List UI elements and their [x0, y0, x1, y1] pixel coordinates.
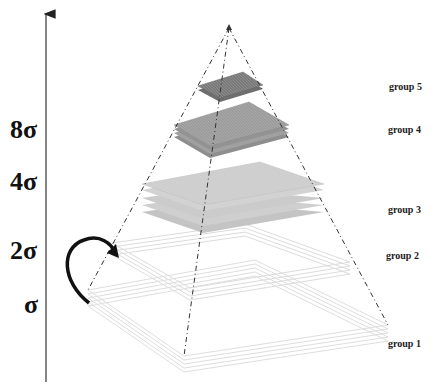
axis-label-2sigma: 2σ	[10, 236, 37, 265]
axis-label-8sigma: 8σ	[10, 115, 37, 144]
group-label-2: group 2	[386, 250, 419, 261]
group-label-1: group 1	[388, 338, 421, 349]
layer-group-1	[88, 260, 388, 372]
axis-label-4sigma: 4σ	[10, 167, 37, 196]
axis-label-sigma: σ	[24, 290, 38, 319]
group-label-3: group 3	[388, 204, 421, 215]
layer-group-5	[198, 72, 263, 102]
group-label-4: group 4	[388, 124, 421, 135]
gaussian-pyramid-diagram: 8σ 4σ 2σ σ	[0, 0, 433, 391]
apex-marker	[226, 24, 232, 30]
layer-group-3	[142, 162, 324, 233]
layer-group-4	[174, 102, 289, 158]
group-label-5: group 5	[389, 81, 422, 92]
